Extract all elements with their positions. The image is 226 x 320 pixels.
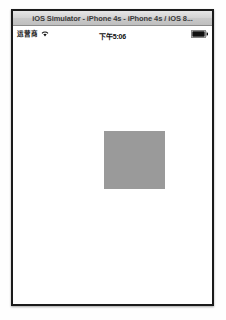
gray-square[interactable] bbox=[104, 131, 165, 189]
screenshot-canvas: iOS Simulator - iPhone 4s - iPhone 4s / … bbox=[0, 0, 226, 320]
clock-label: 下午5:06 bbox=[99, 33, 126, 40]
carrier-label: 运营商 bbox=[17, 30, 38, 38]
app-content-area bbox=[13, 41, 212, 306]
ios-simulator-window: iOS Simulator - iPhone 4s - iPhone 4s / … bbox=[11, 9, 214, 306]
device-screen: 运营商 下午5:06 bbox=[13, 26, 212, 306]
window-title-bar[interactable]: iOS Simulator - iPhone 4s - iPhone 4s / … bbox=[13, 11, 212, 26]
ios-status-bar: 运营商 下午5:06 bbox=[13, 26, 212, 41]
battery-full-icon bbox=[191, 30, 208, 38]
status-bar-left-group: 运营商 bbox=[17, 30, 49, 38]
wifi-icon bbox=[41, 30, 49, 37]
status-bar-right-group bbox=[191, 30, 208, 38]
window-title: iOS Simulator - iPhone 4s - iPhone 4s / … bbox=[32, 13, 193, 22]
